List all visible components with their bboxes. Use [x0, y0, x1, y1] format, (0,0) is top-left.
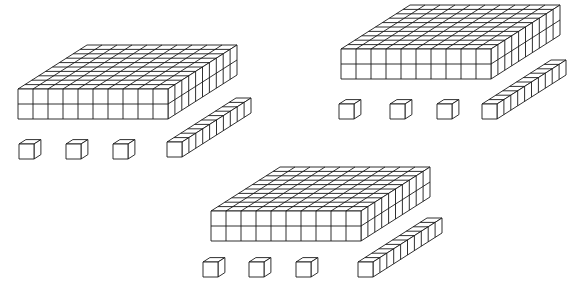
unit-cube — [339, 100, 361, 119]
group-bottom-center — [203, 167, 442, 277]
hundreds-flat-stack — [18, 45, 237, 119]
unit-cube — [390, 100, 412, 119]
unit-cube — [203, 258, 225, 277]
unit-cube — [437, 100, 459, 119]
group-top-left — [18, 45, 251, 159]
diagram-canvas — [0, 0, 580, 298]
unit-cube — [113, 140, 135, 159]
unit-cube — [66, 140, 88, 159]
unit-cube — [296, 258, 318, 277]
unit-cube — [249, 258, 271, 277]
hundreds-flat-stack — [341, 5, 560, 79]
unit-cube — [19, 140, 41, 159]
hundreds-flat-stack — [211, 167, 430, 241]
base-ten-diagram: Base-ten blocks — [0, 0, 580, 298]
group-top-right — [339, 5, 566, 119]
